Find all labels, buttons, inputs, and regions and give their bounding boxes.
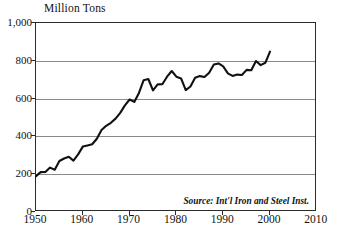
xtick-label-2010: 2010 — [293, 213, 339, 225]
source-annotation: Source: Int'l Iron and Steel Inst. — [183, 196, 309, 206]
chart-container: Million Tons Source: Int'l Iron and Stee… — [0, 0, 342, 249]
ytick-label-1000: 1,000 — [0, 16, 32, 28]
xtick-label-1950: 1950 — [12, 213, 58, 225]
ytickmark-0 — [31, 211, 35, 212]
xtick-label-1960: 1960 — [59, 213, 105, 225]
ytickmark-1000 — [31, 22, 35, 23]
ytickmark-400 — [31, 135, 35, 136]
steel-production-line — [36, 52, 270, 176]
ytick-label-800: 800 — [0, 54, 32, 66]
ytick-label-200: 200 — [0, 167, 32, 179]
xtick-label-1980: 1980 — [152, 213, 198, 225]
plot-area: Source: Int'l Iron and Steel Inst. — [35, 22, 316, 211]
xtick-label-1990: 1990 — [199, 213, 245, 225]
series-svg — [36, 23, 317, 212]
ytickmark-200 — [31, 173, 35, 174]
y-axis-title: Million Tons — [44, 2, 106, 14]
xtick-label-1970: 1970 — [106, 213, 152, 225]
ytickmark-800 — [31, 60, 35, 61]
ytickmark-600 — [31, 98, 35, 99]
ytick-label-400: 400 — [0, 129, 32, 141]
ytick-label-600: 600 — [0, 92, 32, 104]
xtick-label-2000: 2000 — [246, 213, 292, 225]
